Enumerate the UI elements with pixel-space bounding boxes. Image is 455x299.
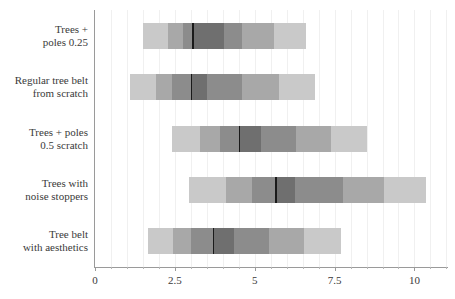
- x-tick-minor: [191, 267, 192, 269]
- x-tick-major: [414, 267, 415, 271]
- interval-band: [274, 23, 306, 49]
- interval-band: [279, 74, 316, 100]
- interval-band: [213, 228, 234, 254]
- y-axis-labels: Trees + poles 0.25Regular tree belt from…: [0, 0, 88, 299]
- median-line: [275, 177, 276, 203]
- interval-band: [295, 177, 343, 203]
- interval-band: [226, 177, 252, 203]
- x-tick-major: [175, 267, 176, 271]
- interval-band: [191, 74, 207, 100]
- interval-bar: [95, 177, 448, 203]
- median-line: [213, 228, 214, 254]
- interval-band: [296, 126, 331, 152]
- x-tick-minor: [303, 267, 304, 269]
- interval-band: [331, 126, 366, 152]
- interval-band: [189, 177, 226, 203]
- interval-band: [242, 23, 274, 49]
- x-tick-major: [255, 267, 256, 271]
- interval-bar: [95, 23, 448, 49]
- interval-band: [384, 177, 426, 203]
- x-tick-label: 5: [252, 274, 258, 287]
- interval-band: [148, 228, 174, 254]
- interval-band: [192, 23, 224, 49]
- x-tick-major: [95, 267, 96, 271]
- interval-band: [343, 177, 385, 203]
- x-tick-minor: [398, 267, 399, 269]
- interval-band: [234, 228, 269, 254]
- interval-bar: [95, 228, 448, 254]
- x-tick-minor: [319, 267, 320, 269]
- x-tick-minor: [383, 267, 384, 269]
- y-axis-category-label: Tree belt with aesthetics: [0, 228, 88, 254]
- interval-bar: [95, 126, 448, 152]
- plot-area: [95, 10, 448, 267]
- x-tick-minor: [159, 267, 160, 269]
- x-tick-minor: [271, 267, 272, 269]
- x-tick-minor: [223, 267, 224, 269]
- x-tick-minor: [367, 267, 368, 269]
- x-tick-label: 0: [92, 274, 98, 287]
- median-line: [239, 126, 240, 152]
- median-line: [191, 74, 192, 100]
- y-axis-category-label: Trees + poles 0.5 scratch: [0, 126, 88, 152]
- y-axis-category-label: Regular tree belt from scratch: [0, 74, 88, 100]
- interval-band: [252, 177, 276, 203]
- interval-chart: Trees + poles 0.25Regular tree belt from…: [0, 0, 455, 299]
- interval-band: [168, 23, 182, 49]
- interval-band: [224, 23, 242, 49]
- x-tick-minor: [111, 267, 112, 269]
- interval-band: [242, 74, 279, 100]
- interval-band: [143, 23, 169, 49]
- interval-band: [156, 74, 172, 100]
- x-tick-minor: [351, 267, 352, 269]
- interval-band: [173, 228, 191, 254]
- interval-band: [200, 126, 219, 152]
- interval-bar: [95, 74, 448, 100]
- interval-band: [269, 228, 304, 254]
- x-tick-minor: [287, 267, 288, 269]
- interval-band: [183, 23, 193, 49]
- median-line: [192, 23, 193, 49]
- interval-band: [172, 126, 201, 152]
- interval-band: [275, 177, 294, 203]
- y-axis-category-label: Trees with noise stoppers: [0, 177, 88, 203]
- interval-band: [130, 74, 156, 100]
- x-tick-label: 10: [409, 274, 420, 287]
- interval-band: [220, 126, 239, 152]
- x-tick-minor: [239, 267, 240, 269]
- y-axis-category-label: Trees + poles 0.25: [0, 23, 88, 49]
- x-tick-minor: [446, 267, 447, 269]
- interval-band: [191, 228, 213, 254]
- x-tick-label: 7.5: [328, 274, 342, 287]
- x-tick-minor: [143, 267, 144, 269]
- x-tick-minor: [207, 267, 208, 269]
- x-tick-major: [335, 267, 336, 271]
- interval-band: [172, 74, 191, 100]
- interval-band: [261, 126, 296, 152]
- interval-band: [239, 126, 261, 152]
- x-tick-minor: [127, 267, 128, 269]
- interval-band: [304, 228, 341, 254]
- x-tick-minor: [430, 267, 431, 269]
- interval-band: [207, 74, 242, 100]
- x-tick-label: 2.5: [168, 274, 182, 287]
